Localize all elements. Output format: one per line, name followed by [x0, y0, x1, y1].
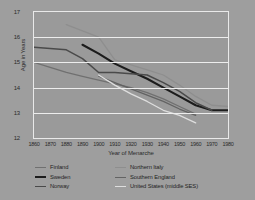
x-tick-label: 1940	[158, 141, 169, 148]
legend-item[interactable]: Norway	[35, 182, 105, 192]
legend-item[interactable]: Southern England	[115, 173, 235, 183]
x-tick-label: 1860	[28, 141, 39, 148]
gridline	[34, 37, 228, 38]
y-tick-label: 13	[0, 110, 20, 116]
series-line	[83, 45, 229, 111]
gridline	[34, 88, 228, 89]
legend-item-label: United States (middle SES)	[130, 183, 198, 190]
y-tick-label: 12	[0, 135, 20, 141]
x-tick-label: 1880	[61, 141, 72, 148]
series-line	[34, 47, 212, 110]
plot-frame	[33, 11, 229, 139]
series-lines	[34, 12, 228, 138]
legend-line-swatch	[35, 186, 46, 187]
legend-line-swatch	[35, 176, 46, 178]
legend-item-label: Sweden	[50, 174, 70, 181]
y-tick-label: 15	[0, 59, 20, 65]
y-tick-label: 16	[0, 34, 20, 40]
legend-item[interactable]: Sweden	[35, 173, 105, 183]
legend-item[interactable]: Finland	[35, 163, 105, 173]
x-tick-label: 1870	[45, 141, 56, 148]
y-tick-label: 14	[0, 85, 20, 91]
legend-item-label: Southern England	[130, 174, 175, 181]
legend-column-right: Northern ItalySouthern EnglandUnited Sta…	[115, 163, 235, 192]
x-tick-label: 1920	[125, 141, 136, 148]
legend-item-label: Northern Italy	[130, 164, 163, 171]
y-axis-title: Age in Years	[20, 25, 26, 85]
legend-line-swatch	[115, 177, 126, 178]
x-tick-label: 1930	[142, 141, 153, 148]
legend-item-label: Finland	[50, 164, 68, 171]
series-line	[99, 76, 196, 115]
y-tick-label: 17	[0, 9, 20, 15]
chart-figure: Age in Years 121314151617 18601870188018…	[0, 0, 255, 200]
legend-line-swatch	[115, 167, 126, 168]
x-axis-tick-labels: 1860187018801890190019101920193019401950…	[33, 141, 229, 150]
x-tick-label: 1960	[190, 141, 201, 148]
gridline	[34, 113, 228, 114]
legend-item[interactable]: Northern Italy	[115, 163, 235, 173]
plot-area	[34, 12, 228, 138]
gridline	[34, 62, 228, 63]
x-tick-label: 1910	[109, 141, 120, 148]
x-tick-label: 1970	[206, 141, 217, 148]
legend-line-swatch	[35, 167, 46, 168]
x-tick-label: 1980	[222, 141, 233, 148]
legend-item-label: Norway	[50, 183, 69, 190]
x-axis-title: Year of Menarche	[33, 150, 229, 156]
chart-legend: FinlandSwedenNorway Northern ItalySouthe…	[33, 163, 233, 193]
x-tick-label: 1950	[174, 141, 185, 148]
legend-item[interactable]: United States (middle SES)	[115, 182, 235, 192]
x-tick-label: 1890	[77, 141, 88, 148]
legend-column-left: FinlandSwedenNorway	[35, 163, 105, 192]
legend-line-swatch	[115, 186, 126, 187]
x-tick-label: 1900	[93, 141, 104, 148]
